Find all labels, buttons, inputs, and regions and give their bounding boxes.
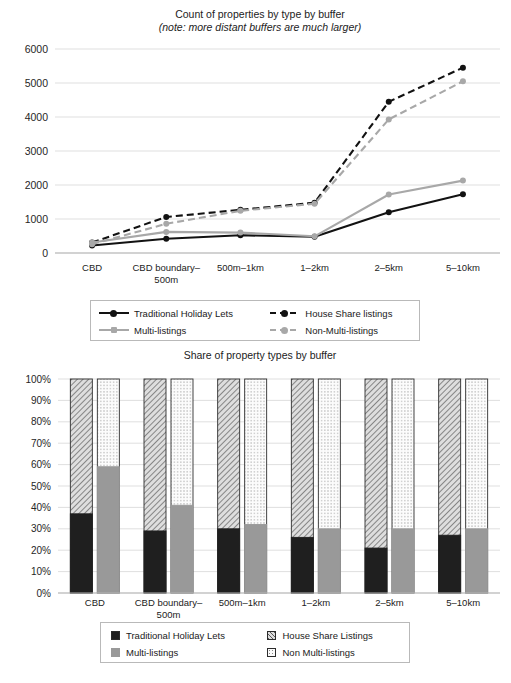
y-tick-label: 40%	[31, 502, 51, 513]
y-tick-label: 0%	[37, 588, 52, 598]
line-chart-x-axis-labels: CBDCBD boundary–500m500m–1km1–2km2–5km5–…	[0, 262, 511, 294]
data-point	[237, 208, 243, 214]
y-tick-label: 10%	[31, 566, 51, 577]
legend-label: Multi-listings	[134, 325, 186, 336]
cut-off-caption	[0, 671, 511, 683]
bar-chart-plot-area: 0%10%20%30%40%50%60%70%80%90%100%	[0, 371, 511, 597]
bar-segment-traditional-holiday-lets	[291, 537, 313, 593]
bar-segment-multi-listings	[171, 505, 193, 593]
data-point	[163, 221, 169, 227]
bar-segment-traditional-holiday-lets	[70, 514, 92, 593]
line-chart-svg: 0100020003000400050006000	[0, 44, 511, 260]
bar-segment-traditional-holiday-lets	[144, 531, 166, 593]
legend-row: Traditional Holiday LetsHouse Share list…	[99, 305, 413, 322]
legend-item-house-share-listings: House Share Listings	[267, 627, 405, 644]
y-tick-label: 30%	[31, 523, 51, 534]
legend-swatch-icon	[267, 648, 276, 657]
data-point	[312, 233, 318, 239]
series-line	[92, 194, 463, 245]
legend-item-multi-listings: Multi-listings	[99, 322, 270, 339]
legend-label: Non Multi-listings	[282, 647, 354, 658]
bar-segment-traditional-holiday-lets	[439, 535, 461, 593]
bar-segment-multi-listings	[97, 467, 119, 593]
bar-chart-title: Share of property types by buffer	[60, 349, 460, 362]
bar-segment-multi-listings	[466, 529, 488, 593]
legend-item-non-multi-listings: Non-Multi-listings	[270, 322, 413, 339]
legend-item-non-multi-listings: Non Multi-listings	[267, 644, 405, 661]
legend-label: Traditional Holiday Lets	[126, 630, 225, 641]
legend-swatch-icon	[111, 648, 120, 657]
data-point	[386, 99, 392, 105]
bar-segment-multi-listings	[318, 529, 340, 593]
line-x-label-6: 5–10km	[420, 262, 506, 274]
y-tick-label: 5000	[25, 77, 49, 89]
series-non-multi-listings	[89, 78, 466, 247]
bar-chart-figure: Share of property types by buffer 0%10%2…	[0, 345, 511, 683]
bar-segment-multi-listings	[392, 529, 414, 593]
line-x-label-5: 2–5km	[346, 262, 432, 274]
y-tick-label: 6000	[25, 44, 49, 55]
legend-swatch-icon	[111, 631, 120, 640]
legend-label: Multi-listings	[126, 647, 178, 658]
y-tick-label: 3000	[25, 145, 49, 157]
legend-label: House Share listings	[305, 308, 392, 319]
legend-label: House Share Listings	[282, 630, 372, 641]
bar-segment-multi-listings	[245, 525, 267, 593]
legend-item-traditional-holiday-lets: Traditional Holiday Lets	[111, 627, 267, 644]
data-point	[163, 236, 169, 242]
y-tick-label: 0	[42, 247, 48, 259]
legend-label: Non-Multi-listings	[305, 325, 378, 336]
series-multi-listings	[89, 178, 466, 246]
bar-x-label-6: 5–10km	[420, 597, 506, 609]
data-point	[386, 209, 392, 215]
legend-item-traditional-holiday-lets: Traditional Holiday Lets	[99, 305, 270, 322]
data-point	[163, 214, 169, 220]
bar-chart-svg: 0%10%20%30%40%50%60%70%80%90%100%	[0, 371, 511, 597]
legend-swatch-icon	[267, 631, 276, 640]
y-tick-label: 50%	[31, 481, 51, 492]
legend-item-house-share-listings: House Share listings	[270, 305, 413, 322]
legend-label: Traditional Holiday Lets	[134, 308, 233, 319]
line-chart-plot-area: 0100020003000400050006000	[0, 44, 511, 260]
line-chart-figure: Count of properties by type by buffer (n…	[0, 0, 511, 345]
bar-chart-title-block: Share of property types by buffer	[60, 349, 460, 362]
data-point	[237, 230, 243, 236]
data-point	[386, 116, 392, 122]
line-x-label-4: 1–2km	[272, 262, 358, 274]
legend-item-multi-listings: Multi-listings	[111, 644, 267, 661]
legend-row: Traditional Holiday LetsHouse Share List…	[111, 627, 405, 644]
legend-row: Multi-listingsNon Multi-listings	[111, 644, 405, 661]
line-chart-title-block: Count of properties by type by buffer (n…	[60, 8, 460, 34]
y-tick-label: 2000	[25, 179, 49, 191]
line-chart-legend: Traditional Holiday LetsHouse Share list…	[90, 300, 420, 341]
series-line	[92, 68, 463, 243]
bar-segment-traditional-holiday-lets	[365, 548, 387, 593]
data-point	[460, 65, 466, 71]
line-x-label-3: 500m–1km	[197, 262, 283, 274]
series-line	[92, 181, 463, 243]
legend-line-marker-icon	[270, 325, 300, 336]
y-tick-label: 80%	[31, 416, 51, 427]
y-tick-label: 100%	[25, 374, 51, 385]
legend-line-marker-icon	[99, 325, 129, 336]
legend-line-marker-icon	[270, 308, 300, 319]
legend-row: Multi-listingsNon-Multi-listings	[99, 322, 413, 339]
bar-segment-traditional-holiday-lets	[218, 529, 240, 593]
data-point	[460, 178, 466, 184]
data-point	[163, 229, 169, 235]
series-house-share-listings	[89, 65, 466, 246]
line-chart-title: Count of properties by type by buffer	[60, 8, 460, 21]
legend-line-marker-icon	[99, 308, 129, 319]
data-point	[460, 78, 466, 84]
line-chart-subtitle: (note: more distant buffers are much lar…	[60, 21, 460, 34]
series-traditional-holiday-lets	[89, 191, 466, 248]
data-point	[89, 241, 95, 247]
y-tick-label: 4000	[25, 111, 49, 123]
series-line	[92, 81, 463, 244]
data-point	[386, 192, 392, 198]
line-x-label-1: CBD	[49, 262, 135, 274]
y-tick-label: 90%	[31, 395, 51, 406]
y-tick-label: 1000	[25, 213, 49, 225]
y-tick-label: 20%	[31, 545, 51, 556]
data-point	[460, 191, 466, 197]
